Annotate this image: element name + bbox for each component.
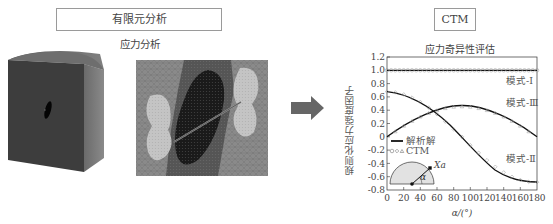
svg-text:0: 0 bbox=[384, 193, 390, 203]
stress-contour-image bbox=[136, 60, 268, 176]
svg-text:120: 120 bbox=[478, 193, 495, 203]
svg-text:1.0: 1.0 bbox=[371, 65, 386, 75]
svg-text:180: 180 bbox=[528, 193, 545, 203]
svg-text:100: 100 bbox=[462, 193, 479, 203]
svg-text:40: 40 bbox=[415, 193, 427, 203]
svg-text:-0.8: -0.8 bbox=[368, 185, 386, 195]
svg-text:20: 20 bbox=[398, 193, 410, 203]
ctm-header-box: CTM bbox=[434, 8, 476, 31]
svg-text:α: α bbox=[420, 172, 426, 182]
mode-3-label: 模式-Ⅲ bbox=[506, 97, 538, 108]
svg-text:160: 160 bbox=[512, 193, 529, 203]
svg-text:Xa: Xa bbox=[433, 160, 446, 170]
svg-text:0.6: 0.6 bbox=[371, 92, 386, 102]
svg-text:80: 80 bbox=[448, 193, 460, 203]
mode-1-label: 模式-Ⅰ bbox=[506, 75, 533, 86]
svg-text:-0.6: -0.6 bbox=[368, 172, 386, 182]
mode-2-label: 模式-Ⅱ bbox=[506, 153, 536, 164]
svg-text:0.4: 0.4 bbox=[371, 105, 386, 115]
svg-text:0.2: 0.2 bbox=[371, 119, 385, 129]
solid-model-image bbox=[0, 48, 110, 218]
svg-text:-0.4: -0.4 bbox=[368, 159, 386, 169]
x-axis-label: α/(°) bbox=[452, 208, 473, 218]
svg-text:140: 140 bbox=[495, 193, 512, 203]
svg-text:0.8: 0.8 bbox=[371, 79, 386, 89]
legend-ctm-label: CTM bbox=[406, 145, 430, 156]
svg-text:0: 0 bbox=[379, 132, 385, 142]
inset-semicircle-diagram: α Xa bbox=[390, 160, 446, 186]
arrow-right-icon bbox=[290, 95, 326, 121]
svg-text:1.2: 1.2 bbox=[371, 52, 385, 62]
svg-text:60: 60 bbox=[431, 193, 443, 203]
sif-chart: 1.2 1.0 0.8 0.6 0.4 0.2 0 -0.2 -0.4 -0.6… bbox=[355, 50, 553, 224]
stress-analysis-label: 应力分析 bbox=[100, 36, 180, 51]
fea-header-box: 有限元分析 bbox=[56, 8, 222, 31]
svg-text:-0.2: -0.2 bbox=[368, 145, 385, 155]
